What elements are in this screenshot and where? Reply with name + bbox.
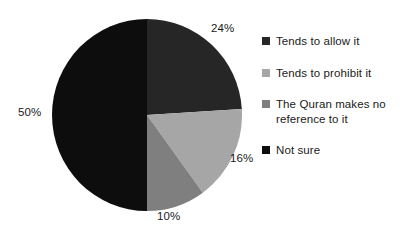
legend-item-quran-no-reference[interactable]: The Quran makes no reference to it (262, 97, 408, 126)
legend-item-label: Tends to allow it (276, 34, 408, 49)
legend-swatch-icon (262, 146, 270, 154)
pie-slice-not-sure[interactable] (52, 19, 147, 211)
pie-chart-figure: 24% 16% 10% 50% Tends to allow it Tends … (0, 0, 409, 241)
legend-item-label: Tends to prohibit it (276, 66, 408, 81)
pie-data-label-not-sure: 50% (18, 106, 41, 118)
legend-item-not-sure[interactable]: Not sure (262, 143, 408, 158)
legend-swatch-icon (262, 100, 270, 108)
pie-chart-svg (52, 19, 242, 211)
pie-data-label-tends-to-prohibit-it: 16% (230, 152, 253, 164)
pie-chart-plot-area (52, 19, 242, 211)
chart-legend: Tends to allow it Tends to prohibit it T… (262, 34, 408, 158)
legend-swatch-icon (262, 69, 270, 77)
legend-item-label: Not sure (276, 143, 408, 158)
legend-item-label: The Quran makes no reference to it (276, 97, 408, 126)
legend-item-tends-to-prohibit-it[interactable]: Tends to prohibit it (262, 66, 408, 81)
legend-item-tends-to-allow-it[interactable]: Tends to allow it (262, 34, 408, 49)
legend-swatch-icon (262, 37, 270, 45)
pie-data-label-quran-no-reference: 10% (157, 210, 180, 222)
pie-data-label-tends-to-allow-it: 24% (211, 22, 234, 34)
